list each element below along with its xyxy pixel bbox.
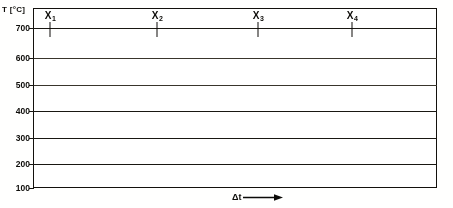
marker-x2-label: X2 [144,11,170,21]
y-tick-label-400: 400 [0,106,30,116]
right-arrow-icon [243,193,283,202]
marker-x4-tick [352,22,353,37]
y-tick-label-500: 500 [0,80,30,90]
y-tick-label-600: 600 [0,53,30,63]
y-tick-label-200: 200 [0,159,30,169]
gridline-600 [33,58,437,59]
gridline-300 [33,138,437,139]
marker-x2-tick [157,22,158,37]
marker-x3-tick [258,22,259,37]
marker-x3: X3 [245,11,271,21]
gridline-700 [33,28,437,29]
marker-x1: X1 [37,11,63,21]
marker-x1-label: X1 [37,11,63,21]
marker-x1-tick [50,22,51,37]
y-axis-title: T [°C] [2,5,25,14]
y-tick-label-100: 100 [0,183,30,193]
y-tick-label-300: 300 [0,133,30,143]
y-tick-label-700: 700 [0,23,30,33]
marker-x4-label: X4 [339,11,365,21]
chart-figure: T [°C] 700 600 500 400 300 200 100 X1 X2… [0,0,453,208]
gridline-200 [33,164,437,165]
plot-area [33,8,437,188]
marker-x3-label: X3 [245,11,271,21]
marker-x2: X2 [144,11,170,21]
marker-x4: X4 [339,11,365,21]
gridline-400 [33,111,437,112]
x-axis-title: Δt [232,192,283,202]
gridline-500 [33,85,437,86]
x-axis-title-label: Δt [232,192,241,202]
